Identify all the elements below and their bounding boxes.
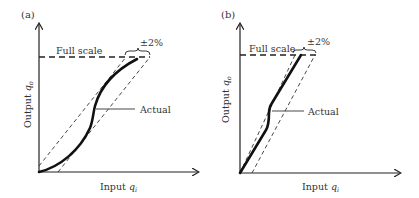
panel-a: (a) Full scale ±2% Actual Input qi Outpu…: [21, 9, 198, 194]
y-axis-label: Output qo: [22, 81, 35, 128]
actual-label: Actual: [139, 104, 171, 115]
tolerance-label: ±2%: [307, 36, 330, 47]
tolerance-brace: [125, 48, 150, 55]
x-axis-label: Input qi: [302, 181, 339, 194]
upper-tolerance-line: [39, 57, 126, 166]
panel-b-label: (b): [221, 9, 235, 20]
tolerance-brace: [293, 47, 316, 53]
accuracy-diagram: (a) Full scale ±2% Actual Input qi Outpu…: [0, 0, 419, 198]
upper-tolerance-line: [240, 55, 295, 173]
y-axis-label: Output qo: [220, 76, 233, 123]
actual-label: Actual: [307, 106, 339, 117]
panel-b: (b) Full scale ±2% Actual Input qi Outpu…: [220, 9, 400, 194]
panel-a-label: (a): [21, 9, 35, 20]
actual-curve: [39, 59, 137, 172]
tolerance-label: ±2%: [140, 37, 163, 48]
full-scale-label: Full scale: [249, 43, 296, 54]
x-axis-label: Input qi: [100, 181, 137, 194]
full-scale-label: Full scale: [56, 45, 103, 56]
lower-tolerance-line: [252, 55, 315, 173]
actual-curve: [240, 55, 301, 173]
